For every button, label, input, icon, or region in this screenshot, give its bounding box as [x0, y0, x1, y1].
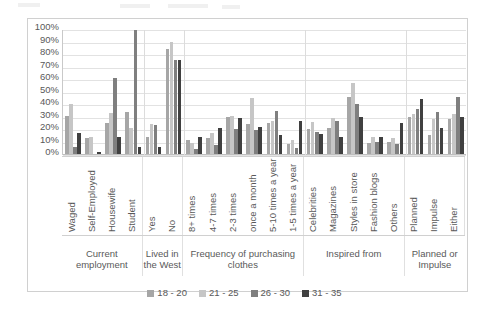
bar [460, 117, 464, 154]
group-title-cell: Lived in the West [143, 236, 183, 276]
group-title: Planned or Impulse [405, 248, 465, 270]
legend-swatch-icon [147, 290, 154, 297]
legend-item[interactable]: 18 - 20 [147, 288, 187, 298]
bar [379, 137, 383, 154]
bar [178, 60, 182, 154]
group-title-cell: Inspired from [304, 236, 405, 276]
y-axis-tick: 90% [40, 34, 59, 43]
legend-label: 18 - 20 [157, 288, 187, 298]
group-title-cell: Planned or Impulse [405, 236, 465, 276]
bar [339, 137, 343, 154]
legend-swatch-icon [302, 290, 309, 297]
category-label: 1-5 times a year [288, 164, 298, 232]
y-axis-tick: 60% [40, 72, 59, 81]
plot-area [62, 30, 466, 155]
bar [158, 147, 162, 154]
legend-item[interactable]: 31 - 35 [302, 288, 342, 298]
y-axis-tick: 40% [40, 97, 59, 106]
bar [299, 121, 303, 154]
legend-label: 26 - 30 [261, 288, 291, 298]
bar [198, 137, 202, 154]
group-title-cell: Frequency of purchasing clothes [183, 236, 304, 276]
group-title-cell: Current employment [62, 236, 143, 276]
y-axis-tick: 10% [40, 134, 59, 143]
group-title: Inspired from [326, 248, 381, 259]
category-label: Yes [147, 217, 157, 233]
y-axis-tick: 80% [40, 47, 59, 56]
category-label: Others [389, 203, 399, 232]
y-axis: 0%10%20%30%40%50%60%70%80%90%100% [27, 26, 61, 155]
category-label: Magazines [328, 186, 338, 232]
group-title: Lived in the West [143, 248, 182, 270]
category-label: 4-7 times [208, 193, 218, 232]
category-label: No [167, 220, 177, 232]
y-axis-tick: 0% [45, 147, 59, 156]
bar [359, 117, 363, 154]
category-label: Styles in store [349, 172, 359, 232]
category-label: Impulse [429, 199, 439, 232]
chart-legend: 18 - 2021 - 2526 - 3031 - 35 [0, 288, 489, 298]
category-label-band: WagedSelf-EmployedHousewifeStudentYesNo8… [62, 156, 465, 236]
bar [89, 137, 93, 154]
category-label: Either [449, 207, 459, 232]
chart-root: 0%10%20%30%40%50%60%70%80%90%100% WagedS… [0, 0, 489, 335]
legend-swatch-icon [251, 290, 258, 297]
bar [138, 147, 142, 154]
group-separator [406, 30, 407, 155]
legend-label: 31 - 35 [312, 288, 342, 298]
legend-item[interactable]: 21 - 25 [199, 288, 239, 298]
category-group-cell [183, 157, 304, 235]
bar [77, 133, 81, 154]
legend-item[interactable]: 26 - 30 [251, 288, 291, 298]
y-axis-tick: 50% [40, 84, 59, 93]
group-title-band: Current employmentLived in the WestFrequ… [62, 236, 465, 276]
bar [420, 99, 424, 154]
y-axis-tick: 30% [40, 109, 59, 118]
bar [97, 152, 101, 154]
bar [134, 30, 138, 154]
legend-label: 21 - 25 [209, 288, 239, 298]
category-label: Housewife [107, 188, 117, 232]
group-separator [144, 30, 145, 155]
bar [400, 123, 404, 154]
bar [238, 118, 242, 154]
group-separator [184, 30, 185, 155]
bar [319, 134, 323, 154]
scan-artifacts [0, 0, 489, 16]
category-label: Student [127, 199, 137, 232]
category-label: Celebrities [308, 187, 318, 232]
category-label: once a month [248, 174, 258, 232]
bar [218, 128, 222, 154]
category-label: 2-3 times [228, 193, 238, 232]
y-axis-tick: 70% [40, 59, 59, 68]
legend-swatch-icon [199, 290, 206, 297]
bar [440, 128, 444, 154]
category-label: Fashion blogs [369, 173, 379, 232]
y-axis-tick: 20% [40, 122, 59, 131]
category-label: 5-10 times a year [268, 159, 278, 232]
bar [117, 137, 121, 154]
category-label: Waged [67, 202, 77, 232]
y-axis-tick: 100% [35, 22, 59, 31]
category-label: 8+ times [187, 196, 197, 232]
bar [279, 135, 283, 154]
group-title: Frequency of purchasing clothes [183, 248, 303, 270]
group-separator [305, 30, 306, 155]
bar [258, 127, 262, 154]
category-label: Planned [409, 197, 419, 232]
group-title: Current employment [62, 248, 142, 270]
category-label: Self-Employed [87, 170, 97, 232]
